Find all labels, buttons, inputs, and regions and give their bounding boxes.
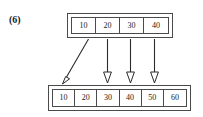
- arrow-diagonal-10: [63, 39, 89, 84]
- figure-root: (6) 10 20 30 40 10 20 30 40 50 60: [0, 0, 203, 117]
- target-cell-1: 20: [75, 90, 97, 106]
- source-cell-2: 30: [120, 18, 144, 33]
- arrow-diagonal-10-head: [63, 77, 70, 84]
- arrow-vertical-40-head: [151, 72, 159, 83]
- arrow-vertical-30: [127, 39, 135, 83]
- arrow-diagonal-10-shaft: [65, 39, 89, 81]
- source-cell-0: 10: [72, 18, 96, 33]
- target-array: 10 20 30 40 50 60: [48, 85, 191, 111]
- target-cell-3: 40: [120, 90, 142, 106]
- arrow-vertical-20: [104, 39, 112, 83]
- arrow-vertical-40: [151, 39, 159, 83]
- source-cell-3: 40: [144, 18, 168, 33]
- arrow-vertical-30-head: [127, 72, 135, 83]
- source-array: 10 20 30 40: [67, 13, 173, 38]
- source-cell-1: 20: [96, 18, 120, 33]
- target-cell-0: 10: [53, 90, 75, 106]
- step-label: (6): [9, 14, 21, 25]
- source-array-cells: 10 20 30 40: [71, 17, 169, 34]
- target-array-cells: 10 20 30 40 50 60: [52, 89, 187, 107]
- target-cell-4: 50: [142, 90, 164, 106]
- arrow-vertical-20-head: [104, 72, 112, 83]
- target-cell-2: 30: [97, 90, 119, 106]
- target-cell-5: 60: [164, 90, 186, 106]
